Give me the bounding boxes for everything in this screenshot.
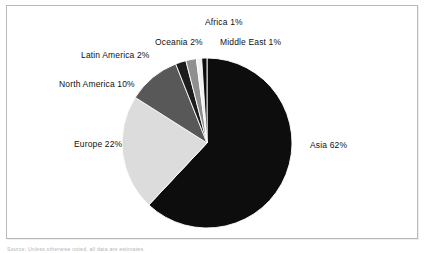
pie-label-north-america: North America 10%	[59, 80, 135, 89]
pie-label-latin-america: Latin America 2%	[81, 51, 150, 60]
pie-label-africa: Africa 1%	[205, 18, 243, 27]
pie-label-oceania: Oceania 2%	[155, 38, 203, 47]
pie-label-europe: Europe 22%	[74, 140, 122, 149]
screenshot-root: Africa 1% Middle East 1% Oceania 2% Lati…	[0, 0, 426, 253]
pie-label-middle-east: Middle East 1%	[220, 38, 281, 47]
pie-label-asia: Asia 62%	[310, 141, 347, 150]
figure-caption: Source: Unless otherwise noted, all data…	[7, 246, 307, 253]
pie-chart-svg	[121, 57, 293, 229]
pie-chart: Africa 1% Middle East 1% Oceania 2% Lati…	[7, 6, 419, 240]
figure-frame: Africa 1% Middle East 1% Oceania 2% Lati…	[6, 5, 418, 239]
